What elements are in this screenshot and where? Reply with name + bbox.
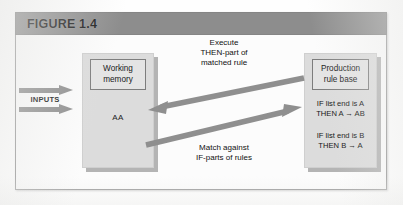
- match-flow-caption: Match against IF-parts of rules: [164, 143, 284, 163]
- inputs-label: INPUTS: [20, 95, 70, 104]
- working-memory-title-line-1: Working: [103, 64, 133, 75]
- inputs-arrow-top-shaft: [19, 88, 61, 93]
- execute-caption-line-3: matched rule: [164, 58, 284, 68]
- execute-flow-caption: Execute THEN-part of matched rule: [164, 38, 284, 69]
- figure-title-bar: FIGURE 1.4: [15, 12, 387, 35]
- working-memory-contents-label: AA: [82, 113, 154, 122]
- match-flow-arrow: [146, 104, 302, 145]
- rule-base-box: Production rule base: [312, 59, 369, 90]
- execute-caption-line-1: Execute: [164, 38, 284, 48]
- figure-title-label: FIGURE 1.4: [27, 17, 97, 31]
- inputs-arrow-top-head: [59, 85, 73, 95]
- rule-base-title-line-1: Production: [321, 64, 360, 75]
- inputs-arrow-bottom-shaft: [19, 107, 61, 112]
- execute-flow-arrow: [148, 78, 304, 114]
- production-rule-1-if: IF list end is A: [304, 99, 377, 109]
- production-rule-2: IF list end is B THEN B → A: [304, 131, 377, 151]
- production-rule-1: IF list end is A THEN A → AB: [304, 99, 377, 119]
- inputs-arrow-bottom-icon: [19, 106, 73, 113]
- inputs-arrow-bottom-head: [59, 104, 73, 114]
- working-memory-box: Working memory: [90, 59, 146, 90]
- match-caption-line-2: IF-parts of rules: [164, 153, 284, 163]
- production-rule-2-then: THEN B → A: [304, 141, 377, 151]
- production-rule-1-then: THEN A → AB: [304, 109, 377, 119]
- figure-container: FIGURE 1.4 Working memory P: [0, 0, 403, 205]
- diagram-canvas: Working memory Production rule base AA I…: [16, 35, 386, 189]
- inputs-arrow-top-icon: [19, 87, 73, 94]
- rule-base-title-line-2: rule base: [324, 75, 358, 86]
- working-memory-title-line-2: memory: [103, 75, 133, 86]
- match-caption-line-1: Match against: [164, 143, 284, 153]
- execute-caption-line-2: THEN-part of: [164, 48, 284, 58]
- production-rule-2-if: IF list end is B: [304, 131, 377, 141]
